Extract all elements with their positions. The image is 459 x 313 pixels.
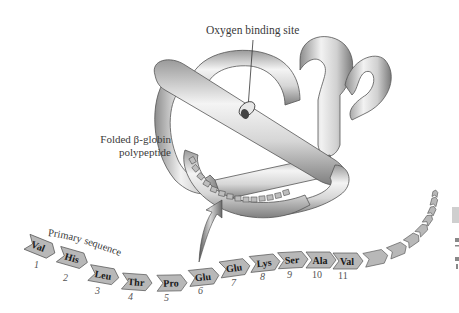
- position-number: 5: [164, 292, 169, 303]
- folded-polypeptide: [154, 37, 391, 218]
- position-number: 6: [198, 285, 203, 296]
- residue-label: Val: [340, 256, 354, 267]
- folding-arrow: [199, 200, 222, 262]
- primary-sequence-label: Primary sequence: [48, 227, 124, 258]
- oxygen-binding-site-label: Oxygen binding site: [206, 24, 299, 36]
- position-number: 3: [94, 285, 100, 296]
- residue-label: Ala: [313, 255, 328, 266]
- residue-label: Pro: [163, 277, 179, 288]
- residue-label: Glu: [194, 271, 212, 284]
- cropped-edge-marks: [452, 207, 459, 269]
- position-number: 9: [287, 269, 292, 280]
- residue-label: Thr: [127, 276, 145, 288]
- position-number: 11: [338, 270, 348, 281]
- position-number: 1: [34, 259, 39, 270]
- residue-label: Lys: [256, 257, 272, 270]
- residue-label: Ser: [284, 254, 300, 266]
- position-number: 8: [260, 271, 265, 282]
- residue-label: Glu: [225, 261, 243, 274]
- position-number: 4: [128, 291, 133, 302]
- position-number: 10: [312, 269, 322, 280]
- position-number: 2: [63, 272, 68, 283]
- folded-polypeptide-label-line1: Folded β-globin: [71, 133, 171, 145]
- folded-polypeptide-label-line2: polypeptide: [71, 146, 171, 158]
- position-number: 7: [231, 277, 237, 288]
- sequence-continuation: [363, 190, 438, 268]
- beta-globin-diagram: Val His Leu Thr Pro Glu Glu Lys Ser Ala …: [0, 0, 459, 313]
